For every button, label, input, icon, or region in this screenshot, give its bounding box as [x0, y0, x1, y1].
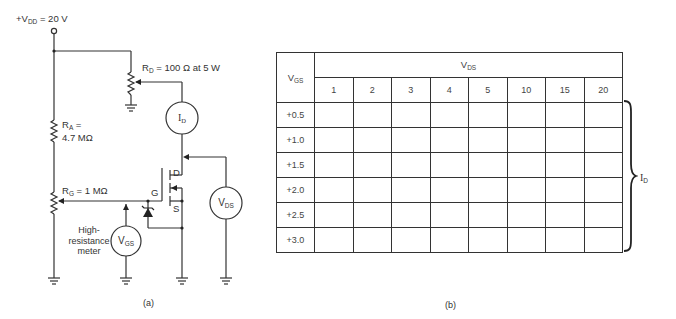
id-value-cell	[546, 103, 585, 128]
vds-col-header: 1	[315, 78, 354, 103]
vds-col-header: 4	[430, 78, 469, 103]
id-value-cell	[546, 178, 585, 203]
ground-icon	[48, 278, 60, 284]
id-value-cell	[315, 153, 354, 178]
id-value-cell	[507, 128, 546, 153]
id-value-cell	[315, 178, 354, 203]
table-row: +1.5	[277, 153, 623, 178]
vgs-column-header: VGS	[277, 53, 315, 103]
id-value-cell	[430, 128, 469, 153]
id-value-cell	[315, 128, 354, 153]
table-row: +2.0	[277, 178, 623, 203]
rg-potentiometer	[51, 192, 57, 214]
id-value-cell	[353, 228, 392, 253]
vds-col-header: 20	[584, 78, 623, 103]
id-value-cell	[469, 128, 508, 153]
vgs-row-header: +0.5	[277, 103, 315, 128]
vds-col-header: 15	[546, 78, 585, 103]
id-value-cell	[430, 103, 469, 128]
id-value-cell	[430, 203, 469, 228]
id-value-cell	[469, 178, 508, 203]
id-value-cell	[546, 153, 585, 178]
supply-label: +VDD = 20 V	[16, 14, 68, 26]
id-brace-label: ID	[640, 172, 648, 184]
table-row: +1.0	[277, 128, 623, 153]
id-value-cell	[430, 153, 469, 178]
id-value-cell	[392, 203, 431, 228]
id-value-cell	[315, 203, 354, 228]
ra-resistor	[51, 120, 57, 142]
id-value-cell	[469, 103, 508, 128]
id-value-cell	[507, 228, 546, 253]
id-value-cell	[584, 228, 623, 253]
id-value-cell	[353, 103, 392, 128]
id-value-cell	[469, 153, 508, 178]
id-value-cell	[353, 178, 392, 203]
vds-meter-label: VDS	[212, 198, 240, 210]
vgs-meter-label: VGS	[112, 236, 140, 248]
vds-col-header: 5	[469, 78, 508, 103]
vgs-row-header: +2.0	[277, 178, 315, 203]
meter-note: High- resistance meter	[66, 225, 112, 257]
ground-icon	[125, 105, 137, 111]
circuit-diagram	[0, 0, 260, 319]
rd-potentiometer	[128, 72, 134, 95]
id-value-cell	[469, 203, 508, 228]
vgs-row-header: +1.5	[277, 153, 315, 178]
id-value-cell	[392, 228, 431, 253]
id-value-cell	[392, 178, 431, 203]
table-row: +2.5	[277, 203, 623, 228]
brace-icon	[622, 100, 638, 252]
ra-value: 4.7 MΩ	[62, 133, 93, 143]
vds-col-header: 3	[392, 78, 431, 103]
id-value-cell	[507, 203, 546, 228]
id-value-cell	[584, 178, 623, 203]
measurement-table: VGS VDS 1 2 3 4 5 10 15 20 +0.5+1.0+1.5+…	[276, 52, 623, 253]
id-value-cell	[315, 103, 354, 128]
drain-label: D	[173, 168, 180, 178]
id-value-cell	[392, 103, 431, 128]
id-value-cell	[507, 103, 546, 128]
table-row: +3.0	[277, 228, 623, 253]
id-meter-label: ID	[170, 113, 194, 125]
caption-b: (b)	[445, 300, 456, 310]
rd-label: RD = 100 Ω at 5 W	[142, 63, 220, 75]
id-value-cell	[315, 228, 354, 253]
id-value-cell	[430, 228, 469, 253]
gate-label: G	[151, 188, 158, 198]
id-value-cell	[469, 228, 508, 253]
id-value-cell	[353, 128, 392, 153]
ground-icon	[120, 278, 132, 284]
id-value-cell	[392, 128, 431, 153]
ra-label: RA =	[62, 120, 81, 132]
id-value-cell	[353, 153, 392, 178]
vds-col-header: 10	[507, 78, 546, 103]
vgs-row-header: +1.0	[277, 128, 315, 153]
id-value-cell	[584, 103, 623, 128]
vds-col-header: 2	[353, 78, 392, 103]
table-row: +0.5	[277, 103, 623, 128]
id-value-cell	[584, 128, 623, 153]
id-value-cell	[507, 178, 546, 203]
vds-group-header: VDS	[315, 53, 623, 78]
id-value-cell	[546, 228, 585, 253]
ground-icon	[176, 278, 188, 284]
id-value-cell	[353, 203, 392, 228]
zener-diode	[143, 208, 153, 217]
id-value-cell	[392, 153, 431, 178]
rg-label: RG = 1 MΩ	[62, 186, 108, 198]
vgs-row-header: +2.5	[277, 203, 315, 228]
id-value-cell	[546, 128, 585, 153]
vdd-terminal	[51, 28, 56, 33]
vgs-row-header: +3.0	[277, 228, 315, 253]
id-value-cell	[584, 153, 623, 178]
ground-icon	[220, 278, 232, 284]
id-value-cell	[507, 153, 546, 178]
id-value-cell	[546, 203, 585, 228]
id-value-cell	[430, 178, 469, 203]
caption-a: (a)	[143, 298, 154, 308]
id-value-cell	[584, 203, 623, 228]
source-label: S	[173, 204, 179, 214]
